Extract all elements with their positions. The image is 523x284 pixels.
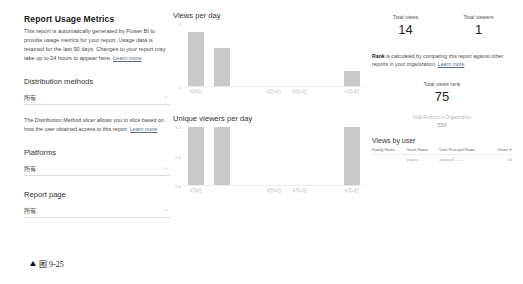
dropdown-platforms[interactable]: 所有	[24, 162, 170, 176]
figure-caption: 图 9-25	[30, 258, 64, 269]
org-label: Total Reports in Organization	[372, 115, 512, 120]
y-axis-tick-label: 1.0	[175, 125, 181, 130]
y-axis-views-per-day: 50	[171, 24, 182, 96]
rank-label: Total views rank	[372, 81, 512, 87]
table-cell: 14	[492, 154, 512, 162]
dropdown-value-report-page: 所有	[24, 206, 36, 215]
table-column-header[interactable]: Views ▼	[492, 147, 512, 155]
x-axis-tick-label: 9月14日	[345, 88, 360, 94]
chevron-down-icon[interactable]	[163, 165, 169, 171]
kpi-row: Total views 14 Total viewers 1	[372, 14, 512, 36]
y-axis-tick-label: 0.5	[175, 154, 181, 159]
dropdown-value-distribution-methods: 所有	[24, 93, 36, 102]
report-usage-metrics-page: Report Usage Metrics This report is auto…	[0, 0, 523, 284]
kpi-total-viewers: Total viewers 1	[445, 14, 512, 36]
slicer-description-distribution-methods: The Distribution Method slicer allows yo…	[24, 116, 170, 134]
dropdown-distribution-methods[interactable]: 所有	[24, 91, 170, 105]
y-axis-tick-label: 0.0	[175, 184, 181, 189]
plot-views-per-day: 50 9月8日9月11日9月12日9月14日	[171, 24, 365, 96]
org-value: 559	[372, 122, 512, 128]
x-axis-tick-label: 9月11日	[267, 88, 282, 94]
y-axis-tick-label: 0	[179, 85, 181, 90]
chevron-down-icon[interactable]	[163, 94, 169, 100]
kpi-label-total-views: Total views	[372, 14, 439, 20]
page-title: Report Usage Metrics	[24, 14, 170, 24]
chart-title-views-per-day: Views per day	[173, 11, 365, 20]
chart-unique-viewers-per-day: Unique viewers per day 1.00.50.0 9月8日9月1…	[171, 114, 365, 194]
slicer-learn-more-link[interactable]: Learn more	[130, 126, 158, 132]
bar[interactable]	[344, 71, 360, 87]
y-axis-unique-viewers-per-day: 1.00.50.0	[171, 127, 182, 195]
kpi-total-views: Total views 14	[372, 14, 439, 36]
rank-note: Rank is calculated by comparing this rep…	[372, 52, 512, 69]
bars-views-per-day	[183, 24, 365, 87]
x-axis-unique-viewers-per-day: 9月8日9月11日9月12日9月14日	[183, 186, 365, 195]
triangle-marker-icon	[30, 261, 36, 266]
x-axis-tick-label: 9月12日	[293, 88, 308, 94]
chevron-down-icon[interactable]	[163, 207, 169, 213]
table-column-header[interactable]: Given Name	[407, 147, 440, 155]
chart-views-per-day: Views per day 50 9月8日9月11日9月12日9月14日	[171, 11, 365, 95]
kpi-value-total-viewers: 1	[445, 23, 512, 36]
bar[interactable]	[214, 48, 230, 87]
table-header-row: Family NameGiven NameUser Principal Name…	[372, 147, 512, 155]
table-row[interactable]: wsacaaewca@----- --14	[372, 154, 512, 162]
slicer-report-page: Report page 所有	[24, 190, 170, 218]
bar[interactable]	[214, 127, 230, 186]
table-cell	[372, 154, 407, 162]
total-reports-in-organization: Total Reports in Organization 559	[372, 115, 512, 128]
table-body: wsacaaewca@----- --14	[372, 154, 512, 162]
slicer-label-platforms: Platforms	[24, 148, 170, 157]
rank-note-bold: Rank	[372, 53, 385, 59]
table-title-views-by-user: Views by user	[372, 137, 512, 144]
dropdown-value-platforms: 所有	[24, 164, 36, 173]
bar[interactable]	[188, 32, 204, 87]
figure-caption-text: 图 9-25	[39, 258, 64, 269]
plot-unique-viewers-per-day: 1.00.50.0 9月8日9月11日9月12日9月14日	[171, 127, 365, 195]
chart-title-unique-viewers-per-day: Unique viewers per day	[173, 114, 365, 123]
slicer-label-report-page: Report page	[24, 190, 170, 199]
kpi-label-total-viewers: Total viewers	[445, 14, 512, 20]
views-by-user-table: Family NameGiven NameUser Principal Name…	[372, 147, 512, 162]
bars-unique-viewers-per-day	[183, 127, 365, 186]
x-axis-tick-label: 9月14日	[345, 187, 360, 193]
x-axis-tick-label: 9月12日	[293, 187, 308, 193]
total-views-rank: Total views rank 75	[372, 81, 512, 103]
table-cell: wsaca	[407, 154, 440, 162]
x-axis-tick-label: 9月8日	[190, 187, 203, 193]
learn-more-link[interactable]: Learn more	[113, 55, 142, 61]
page-description-text: This report is automatically generated b…	[24, 28, 165, 61]
slicer-platforms: Platforms 所有	[24, 148, 170, 176]
table-cell: aewca@----- --	[439, 154, 491, 162]
views-by-user-table-block: Views by user Family NameGiven NameUser …	[372, 137, 512, 162]
metrics-panel: Total views 14 Total viewers 1 Rank is c…	[372, 14, 512, 162]
y-axis-tick-label: 5	[179, 22, 181, 27]
sort-caret-icon: ▼	[508, 148, 512, 152]
x-axis-views-per-day: 9月8日9月11日9月12日9月14日	[183, 87, 365, 96]
slicer-label-distribution-methods: Distribution methods	[24, 77, 170, 86]
dropdown-report-page[interactable]: 所有	[24, 204, 170, 218]
bar[interactable]	[188, 127, 204, 186]
page-description: This report is automatically generated b…	[24, 27, 170, 63]
table-column-header[interactable]: User Principal Name	[439, 147, 491, 155]
slicer-distribution-methods: Distribution methods 所有 The Distribution…	[24, 77, 170, 134]
x-axis-tick-label: 9月8日	[190, 88, 203, 94]
rank-value: 75	[372, 90, 512, 103]
info-panel: Report Usage Metrics This report is auto…	[24, 14, 170, 218]
table-column-header[interactable]: Family Name	[372, 147, 407, 155]
kpi-value-total-views: 14	[372, 23, 439, 36]
x-axis-tick-label: 9月11日	[267, 187, 282, 193]
rank-learn-more-link[interactable]: Learn more	[438, 61, 465, 67]
bar[interactable]	[344, 127, 360, 186]
